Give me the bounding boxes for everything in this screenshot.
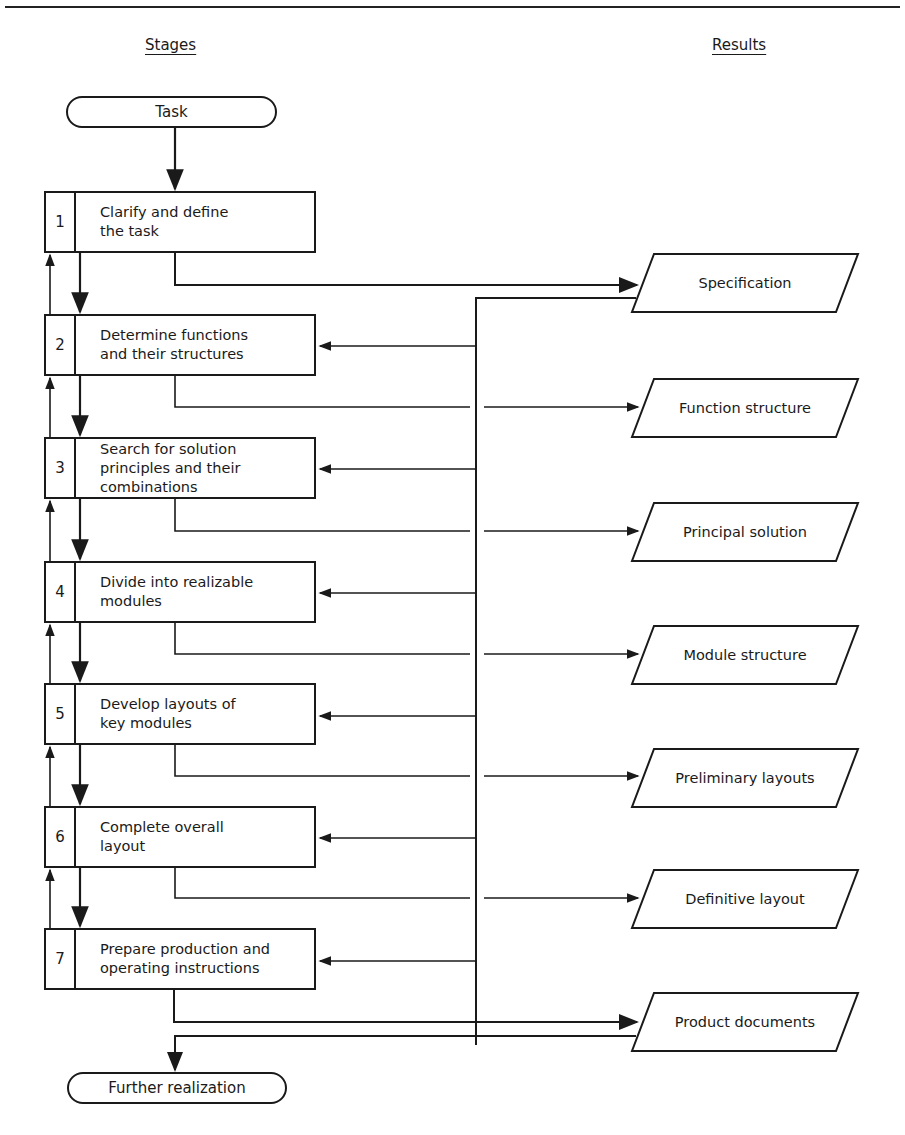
- stage-label: Clarify and define the task: [76, 193, 228, 251]
- result-label: Preliminary layouts: [675, 770, 814, 786]
- stage-number: 6: [46, 808, 76, 866]
- stage-number: 7: [46, 930, 76, 988]
- stage-label: Divide into realizable modules: [76, 563, 253, 621]
- stage-label: Determine functions and their structures: [76, 316, 248, 374]
- stage-box-7: 7Prepare production and operating instru…: [44, 928, 316, 990]
- stage-box-2: 2Determine functions and their structure…: [44, 314, 316, 376]
- result-label: Definitive layout: [685, 891, 805, 907]
- stage-number: 2: [46, 316, 76, 374]
- stage-box-5: 5Develop layouts of key modules: [44, 683, 316, 745]
- result-label: Module structure: [683, 647, 806, 663]
- result-module-structure: Module structure: [630, 624, 860, 686]
- stage-label: Develop layouts of key modules: [76, 685, 236, 743]
- result-function-structure: Function structure: [630, 377, 860, 439]
- stage-label: Search for solution principles and their…: [76, 439, 240, 497]
- stage-box-4: 4Divide into realizable modules: [44, 561, 316, 623]
- result-label: Specification: [698, 275, 791, 291]
- result-label: Function structure: [679, 400, 811, 416]
- end-terminal-further-realization: Further realization: [67, 1072, 287, 1104]
- stage-number: 3: [46, 439, 76, 497]
- start-terminal-task: Task: [66, 96, 277, 128]
- result-preliminary-layouts: Preliminary layouts: [630, 747, 860, 809]
- result-specification: Specification: [630, 252, 860, 314]
- stage-number: 1: [46, 193, 76, 251]
- stage-number: 4: [46, 563, 76, 621]
- result-principal-solution: Principal solution: [630, 501, 860, 563]
- result-product-documents: Product documents: [630, 991, 860, 1053]
- stage-box-1: 1Clarify and define the task: [44, 191, 316, 253]
- stage-box-6: 6Complete overall layout: [44, 806, 316, 868]
- stage-label: Prepare production and operating instruc…: [76, 930, 270, 988]
- result-definitive-layout: Definitive layout: [630, 868, 860, 930]
- stage-label: Complete overall layout: [76, 808, 224, 866]
- result-label: Product documents: [675, 1014, 815, 1030]
- result-label: Principal solution: [683, 524, 807, 540]
- stage-number: 5: [46, 685, 76, 743]
- stage-box-3: 3Search for solution principles and thei…: [44, 437, 316, 499]
